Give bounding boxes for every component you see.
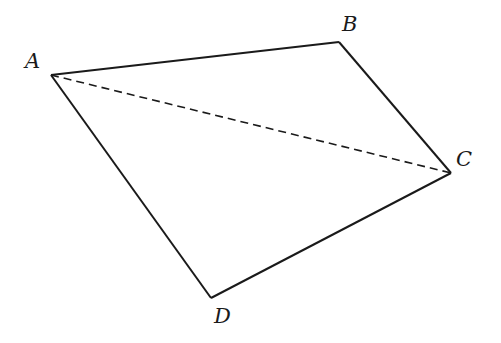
vertex-label-a: A [23, 49, 40, 73]
quadrilateral-edges [51, 42, 451, 298]
quadrilateral-diagram: A B C D [0, 0, 501, 343]
vertex-label-d: D [213, 304, 231, 328]
vertex-label-c: C [456, 147, 472, 171]
edge-bc [339, 42, 451, 173]
edge-da [51, 75, 211, 298]
edge-ab [51, 42, 339, 75]
vertex-label-b: B [341, 12, 357, 36]
edge-cd [211, 173, 451, 298]
